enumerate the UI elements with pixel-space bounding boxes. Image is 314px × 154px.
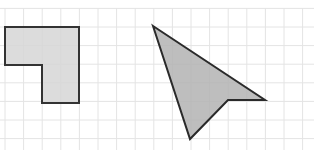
L-shape-polygon — [5, 27, 79, 103]
grid-diagram — [0, 0, 314, 154]
